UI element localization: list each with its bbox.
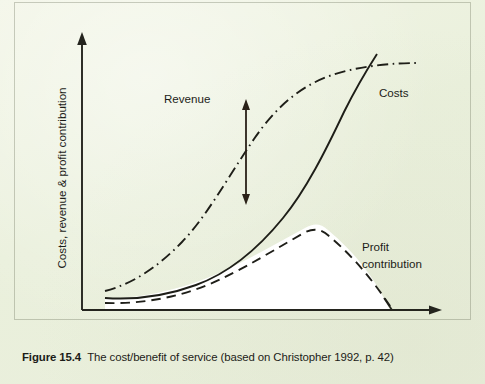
figure-caption-text: The cost/benefit of service (based on Ch… xyxy=(87,351,394,363)
figure-frame: Revenue Costs Profit contribution Servic… xyxy=(14,2,471,320)
profit-contribution-label-line1: Profit xyxy=(362,240,390,253)
figure-caption-number: Figure 15.4 xyxy=(22,351,81,363)
revenue-label: Revenue xyxy=(164,92,210,105)
gap-arrow-icon xyxy=(242,99,250,205)
profit-contribution-label-line2: contribution xyxy=(362,257,422,270)
chart-svg: Revenue Costs Profit contribution Servic… xyxy=(14,2,471,320)
costs-label: Costs xyxy=(379,86,409,99)
y-axis-label: Costs, revenue & profit contribution xyxy=(55,87,68,268)
figure-page: Revenue Costs Profit contribution Servic… xyxy=(0,0,485,384)
x-axis-arrowhead xyxy=(429,305,442,314)
y-axis-arrowhead xyxy=(77,32,87,45)
figure-caption: Figure 15.4 The cost/benefit of service … xyxy=(22,351,472,363)
x-axis-tick-label-100: 100% xyxy=(366,318,396,320)
